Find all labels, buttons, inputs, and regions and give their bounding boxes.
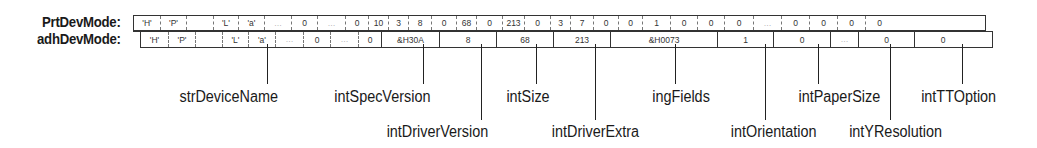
- prt-byte-cell: …: [264, 16, 291, 30]
- prt-byte-cell: …: [753, 16, 781, 30]
- field-label-ingfields: ingFields: [652, 88, 710, 106]
- prt-byte-cell: 68: [456, 16, 476, 30]
- field-label-intsize: intSize: [506, 88, 549, 106]
- adh-field-cell: 0: [358, 32, 381, 47]
- leader-line: [481, 44, 482, 120]
- prt-byte-cell: 'P': [160, 16, 186, 30]
- prt-byte-cell: 'a': [238, 16, 264, 30]
- prt-byte-cell: 3: [388, 16, 408, 30]
- adh-field-cell: 0: [303, 32, 330, 47]
- adh-row-label: adhDevMode:: [37, 30, 121, 47]
- adh-field-cell: 'H': [141, 32, 168, 47]
- field-label-intspecversion: intSpecVersion: [334, 88, 430, 106]
- leader-line: [962, 44, 963, 84]
- adh-field-cell: [195, 32, 222, 47]
- adh-field-cell: &H0073: [610, 32, 717, 47]
- leader-line: [675, 44, 676, 84]
- adh-field-cell: 8: [439, 32, 496, 47]
- prt-byte-cell: 0: [476, 16, 502, 30]
- prt-byte-cell: 0: [670, 16, 697, 30]
- prt-byte-cell: 0: [431, 16, 456, 30]
- prt-byte-cell: 3: [550, 16, 570, 30]
- field-label-intdriverextra: intDriverExtra: [552, 123, 639, 141]
- prt-byte-cell: 0: [345, 16, 368, 30]
- prt-byte-cell: 7: [570, 16, 593, 30]
- prt-byte-cell: 'L': [213, 16, 238, 30]
- prt-byte-cell: 0: [593, 16, 618, 30]
- leader-line: [536, 44, 537, 84]
- leader-line: [818, 44, 819, 84]
- field-label-intdriverversion: intDriverVersion: [387, 123, 489, 141]
- prt-byte-cell: 0: [865, 16, 893, 30]
- prt-byte-cell: 1: [642, 16, 670, 30]
- prt-byte-cell: 8: [408, 16, 431, 30]
- adh-field-cell: …: [275, 32, 303, 47]
- prt-byte-strip: 'H''P''L''a'…0…010380680213037001000…000…: [133, 15, 986, 31]
- adh-field-cell: 0: [773, 32, 830, 47]
- adh-field-cell: 0: [858, 32, 914, 47]
- leader-line: [890, 44, 891, 120]
- prt-byte-cell: 0: [291, 16, 317, 30]
- field-label-intorientation: intOrientation: [731, 123, 817, 141]
- prt-byte-cell: 0: [837, 16, 865, 30]
- prt-byte-cell: 0: [697, 16, 724, 30]
- leader-line: [267, 44, 268, 84]
- leader-line: [423, 44, 424, 84]
- adh-field-cell: 213: [553, 32, 610, 47]
- field-label-intyresolution: intYResolution: [849, 123, 942, 141]
- prt-byte-cell: 10: [368, 16, 388, 30]
- prt-row-label: PrtDevMode:: [42, 13, 121, 30]
- adh-field-cell: 'L': [222, 32, 248, 47]
- adh-field-cell: …: [330, 32, 358, 47]
- field-label-intttoption: intTTOption: [921, 88, 996, 106]
- adh-field-cell: &H30A: [381, 32, 439, 47]
- prt-byte-cell: 0: [781, 16, 809, 30]
- leader-line: [595, 44, 596, 120]
- prt-byte-cell: …: [317, 16, 345, 30]
- prt-byte-cell: 0: [809, 16, 837, 30]
- prt-byte-cell: 0: [618, 16, 642, 30]
- prt-byte-cell: [186, 16, 213, 30]
- adh-field-cell: 'a': [248, 32, 275, 47]
- field-label-strdevicename: strDeviceName: [179, 88, 277, 106]
- adh-field-cell: 68: [496, 32, 553, 47]
- prt-byte-cell: 0: [724, 16, 753, 30]
- adh-field-cell: 'P': [168, 32, 195, 47]
- prt-byte-cell: 213: [502, 16, 524, 30]
- prt-byte-cell: 0: [524, 16, 550, 30]
- prt-byte-cell: 'H': [134, 16, 160, 30]
- leader-line: [765, 44, 766, 120]
- adh-field-cell: …: [830, 32, 858, 47]
- field-label-intpapersize: intPaperSize: [798, 88, 880, 106]
